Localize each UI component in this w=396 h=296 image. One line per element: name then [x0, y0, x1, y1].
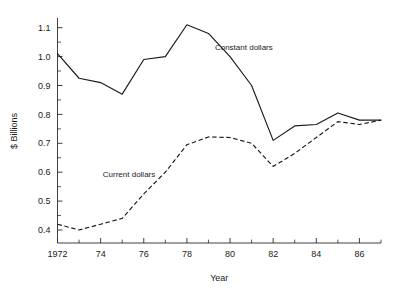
x-tick-label: 84 [311, 249, 321, 259]
x-tick-label: 82 [268, 249, 278, 259]
x-tick-label: 86 [354, 249, 364, 259]
y-axis-title: $ Billions [9, 112, 19, 149]
x-axis-title: Year [210, 273, 228, 283]
x-axis-tick-labels: 197274767880828486 [47, 249, 364, 259]
y-tick-label: 0.7 [38, 138, 51, 148]
y-tick-label: 0.6 [38, 167, 51, 177]
x-tick-label: 1972 [47, 249, 67, 259]
y-tick-label: 0.5 [38, 196, 51, 206]
y-tick-label: 0.4 [38, 225, 51, 235]
x-tick-label: 76 [139, 249, 149, 259]
chart-figure: 0.40.50.60.70.80.91.01.1 197274767880828… [0, 0, 396, 296]
y-tick-label: 0.8 [38, 110, 51, 120]
series-line-constant-dollars [58, 25, 382, 141]
x-tick-label: 80 [225, 249, 235, 259]
y-tick-label: 1.1 [38, 23, 51, 33]
x-tick-label: 74 [96, 249, 106, 259]
line-chart: 0.40.50.60.70.80.91.01.1 197274767880828… [0, 0, 396, 296]
series-label-constant-dollars: Constant dollars [215, 43, 273, 52]
x-tick-label: 78 [182, 249, 192, 259]
y-axis-minor-ticks [58, 42, 61, 215]
y-axis-tick-labels: 0.40.50.60.70.80.91.01.1 [38, 23, 51, 235]
series-label-current-dollars: Current dollars [103, 170, 155, 179]
y-tick-label: 0.9 [38, 81, 51, 91]
y-tick-label: 1.0 [38, 52, 51, 62]
